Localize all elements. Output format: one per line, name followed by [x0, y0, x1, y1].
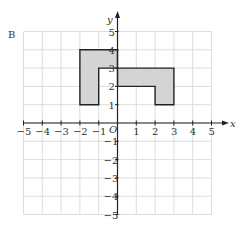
y-axis-label: y — [106, 14, 113, 25]
axes — [24, 11, 230, 215]
y-tick-label: −4 — [104, 191, 119, 202]
y-tick-label: −5 — [104, 210, 119, 221]
right-shape — [118, 68, 174, 105]
x-tick-label: 2 — [152, 126, 158, 137]
x-tick-label: 3 — [171, 126, 177, 137]
y-tick-label: 2 — [109, 81, 115, 92]
x-tick-label: 5 — [209, 126, 215, 137]
y-tick-label: 4 — [109, 45, 115, 56]
x-tick-label: −3 — [54, 126, 69, 137]
y-tick-label: −3 — [104, 173, 119, 184]
x-tick-label: 1 — [133, 126, 139, 137]
figure-label: B — [8, 29, 15, 40]
x-tick-label: −2 — [73, 126, 88, 137]
coordinate-grid-figure: B −5−4−3−2−11234554321−1−2−3−4−5 x y O — [0, 0, 243, 227]
shapes — [80, 50, 174, 105]
x-tick-label: −4 — [35, 126, 50, 137]
y-tick-label: 3 — [109, 63, 115, 74]
left-shape — [80, 50, 118, 105]
y-tick-label: −2 — [104, 155, 119, 166]
x-tick-label: −5 — [17, 126, 32, 137]
x-axis-label: x — [230, 118, 236, 129]
y-tick-label: 5 — [109, 27, 115, 38]
y-tick-label: 1 — [109, 100, 115, 111]
y-tick-label: −1 — [104, 136, 119, 147]
x-tick-label: 4 — [190, 126, 196, 137]
origin-label: O — [109, 124, 117, 135]
